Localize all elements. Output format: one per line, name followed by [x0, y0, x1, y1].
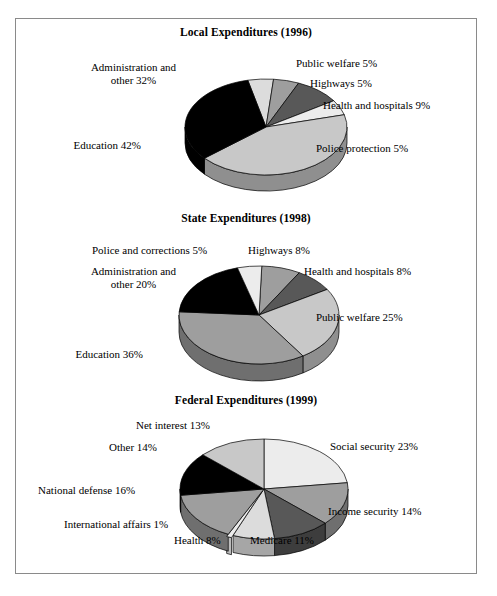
label-local-police-protection: Police protection 5%: [316, 142, 408, 155]
label-federal-social-security: Social security 23%: [330, 440, 418, 453]
chart-local-expenditures: Local Expenditures (1996) Administration…: [16, 19, 476, 207]
label-federal-other: Other 14%: [109, 441, 157, 454]
label-federal-international-affairs: International affairs 1%: [64, 518, 168, 531]
label-local-public-welfare: Public welfare 5%: [296, 57, 377, 70]
label-federal-medicare: Medicare 11%: [250, 534, 314, 547]
label-federal-net-interest: Net interest 13%: [136, 419, 210, 432]
label-state-administration: Administration and other 20%: [81, 265, 186, 291]
label-local-highways: Highways 5%: [310, 77, 372, 90]
label-state-highways: Highways 8%: [248, 244, 310, 257]
label-state-police-corrections: Police and corrections 5%: [92, 244, 207, 257]
label-state-education: Education 36%: [16, 348, 143, 361]
label-local-education: Education 42%: [16, 139, 141, 152]
chart-state-expenditures: State Expenditures (1998) Police and cor…: [16, 205, 476, 393]
label-local-administration: Administration and other 32%: [81, 61, 186, 87]
label-federal-national-defense: National defense 16%: [38, 484, 135, 497]
pie-local-svg: [16, 19, 478, 207]
figure-frame: Local Expenditures (1996) Administration…: [15, 18, 477, 574]
chart-federal-expenditures: Federal Expenditures (1999) Net interest…: [16, 387, 476, 575]
label-local-health-hospitals: Health and hospitals 9%: [323, 99, 430, 112]
label-federal-health: Health 8%: [174, 534, 221, 547]
pie-federal-svg: [16, 387, 478, 575]
pie-state-svg: [16, 205, 478, 393]
label-state-health-hospitals: Health and hospitals 8%: [304, 265, 411, 278]
figure-page: Local Expenditures (1996) Administration…: [0, 0, 497, 596]
label-federal-income-security: Income security 14%: [328, 505, 421, 518]
label-state-public-welfare: Public welfare 25%: [316, 311, 403, 324]
